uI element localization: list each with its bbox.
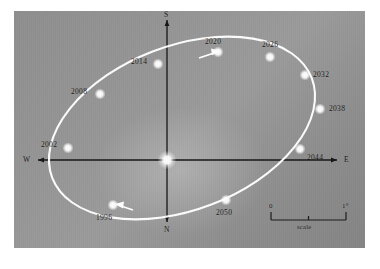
axis-label-west: W	[23, 156, 30, 164]
epoch-label-2002: 2002	[41, 141, 57, 149]
primary-star	[158, 151, 177, 170]
orbit-ellipse	[23, 11, 341, 248]
diagram-canvas	[14, 11, 365, 248]
epoch-label-1996: 1996	[96, 214, 112, 222]
axis-label-south: S	[164, 11, 168, 19]
axis-label-north: N	[164, 226, 170, 234]
horizontal-axis	[38, 158, 337, 163]
epoch-label-2026: 2026	[262, 41, 278, 49]
scale-caption: scale	[297, 224, 312, 231]
epoch-label-2020: 2020	[205, 38, 221, 46]
scale-bar	[271, 212, 346, 220]
epoch-label-2032: 2032	[313, 71, 329, 79]
scale-start-label: 0	[269, 203, 273, 210]
axis-label-east: E	[344, 156, 349, 164]
diagram-panel: S N W E 1996 2002 2008 2014 2020 2026 20…	[14, 11, 365, 248]
epoch-label-2050: 2050	[216, 209, 232, 217]
epoch-label-2014: 2014	[131, 58, 147, 66]
epoch-label-2038: 2038	[329, 105, 345, 113]
epoch-label-2044: 2044	[307, 154, 323, 162]
orbit-diagram-figure: S N W E 1996 2002 2008 2014 2020 2026 20…	[0, 0, 380, 269]
epoch-label-2008: 2008	[71, 88, 87, 96]
scale-end-label: 1°	[342, 203, 349, 210]
orbit-markers	[62, 46, 325, 210]
vertical-axis	[165, 20, 170, 222]
